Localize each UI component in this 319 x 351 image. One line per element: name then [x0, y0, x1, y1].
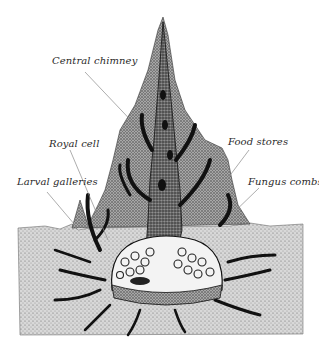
label-larval-galleries: Larval galleries — [17, 177, 98, 187]
label-central-chimney: Central chimney — [52, 56, 137, 66]
royal-cell-shape — [130, 277, 150, 285]
label-royal-cell: Royal cell — [49, 139, 99, 149]
label-fungus-combs: Fungus combs — [248, 177, 319, 187]
termite-mound-illustration: Central chimney Royal cell Larval galler… — [0, 0, 319, 351]
label-food-stores: Food stores — [228, 137, 288, 147]
